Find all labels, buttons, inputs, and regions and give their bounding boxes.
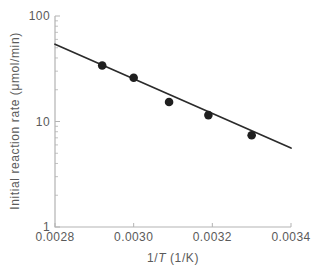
x-tick-label: 0.0028 — [35, 230, 74, 244]
data-point — [247, 131, 256, 140]
data-point — [204, 111, 213, 120]
x-tick-label: 0.0034 — [271, 230, 310, 244]
x-axis-label-variable: T — [158, 251, 166, 265]
arrhenius-plot-figure: 0.00280.00300.00320.0034110100 Initial r… — [0, 0, 327, 280]
y-tick-label: 100 — [29, 9, 50, 23]
y-tick-label: 10 — [36, 115, 50, 129]
data-point — [165, 98, 174, 107]
x-tick-label: 0.0030 — [114, 230, 153, 244]
x-axis-label: 1/T (1/K) — [55, 251, 291, 265]
trend-line — [55, 44, 291, 148]
y-tick-label: 1 — [43, 220, 50, 234]
data-point — [98, 61, 107, 70]
arrhenius-plot-canvas: 0.00280.00300.00320.0034110100 — [0, 0, 327, 280]
x-axis-label-prefix: 1/ — [147, 251, 158, 265]
y-axis-label: Initial reaction rate (μmol/min) — [8, 32, 22, 210]
x-axis-label-suffix: (1/K) — [166, 251, 199, 265]
data-point — [129, 73, 138, 82]
axes-frame — [55, 16, 291, 227]
x-tick-label: 0.0032 — [193, 230, 232, 244]
